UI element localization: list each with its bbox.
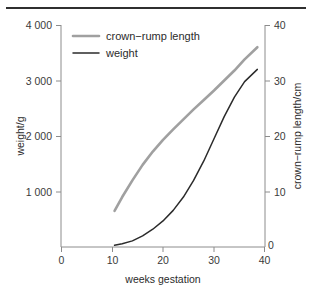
x-tick-label-10: 10 [107,254,119,266]
y-axis-right-ticks [265,26,270,193]
y2-tick-label-10: 10 [274,186,286,198]
y2-tick-label-30: 30 [274,75,286,87]
line-chart: 4 000 3 000 2 000 1 000 40 30 20 10 0 0 … [0,0,313,294]
y2-tick-label-20: 20 [274,130,286,142]
y-tick-label-3000: 3 000 [26,75,52,87]
legend-label-crown-rump-length: crown−rump length [106,30,200,42]
series-group [115,47,258,245]
y-tick-label-2000: 2 000 [26,130,52,142]
y2-tick-label-0: 0 [268,239,274,251]
x-tick-label-30: 30 [208,254,220,266]
figure-container: 4 000 3 000 2 000 1 000 40 30 20 10 0 0 … [0,0,313,294]
x-tick-label-20: 20 [157,254,169,266]
x-axis-ticks [62,247,265,252]
series-line-crown-rump-length [115,47,258,211]
legend-label-weight: weight [105,47,138,59]
x-tick-label-0: 0 [59,254,65,266]
y-tick-label-1000: 1 000 [26,186,52,198]
y-axis-left-ticks [56,26,61,193]
x-tick-label-40: 40 [259,254,271,266]
x-axis-title: weeks gestation [124,273,200,285]
y-tick-label-4000: 4 000 [26,19,52,31]
y2-tick-label-40: 40 [274,19,286,31]
y-axis-title: weight/g [14,116,26,156]
y2-axis-title: crown−rump length/cm [291,83,303,190]
legend: crown−rump length weight [73,30,200,59]
series-line-weight [115,69,258,245]
top-horizontal-rule [6,7,306,9]
